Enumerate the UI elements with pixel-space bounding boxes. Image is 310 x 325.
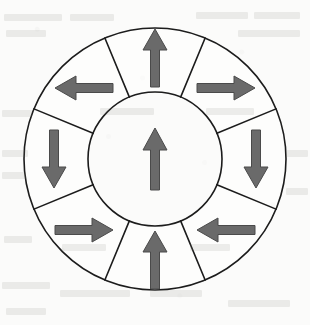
center-arrow-up: [143, 128, 167, 190]
segmented-ring-diagram: [0, 0, 310, 325]
center-arrow-group: [143, 128, 167, 190]
figure-container: [0, 0, 310, 325]
